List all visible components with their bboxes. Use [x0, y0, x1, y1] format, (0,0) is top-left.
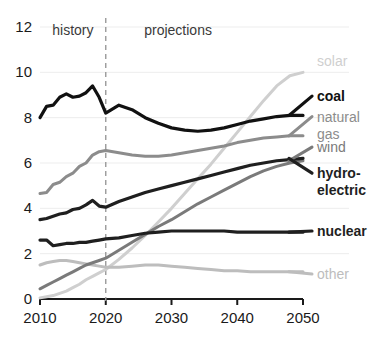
- x-tick-label-2050: 2050: [286, 309, 319, 326]
- series-label-coal: coal: [317, 88, 345, 104]
- series-label-wind: wind: [316, 139, 346, 155]
- series-lines: [40, 72, 303, 298]
- series-leader-coal: [289, 96, 312, 115]
- series-line-other: [40, 260, 303, 271]
- series-label-nuclear: nuclear: [317, 223, 367, 239]
- x-tick-label-2040: 2040: [221, 309, 254, 326]
- series-label-solar: solar: [317, 53, 348, 69]
- series-labels: coalnaturalgaswindhydro-electricnuclears…: [289, 53, 367, 282]
- series-line-coal: [40, 86, 303, 131]
- era-annotations: historyprojections: [52, 22, 212, 38]
- x-tick-label-2010: 2010: [23, 309, 56, 326]
- y-tick-label-2: 2: [24, 245, 32, 262]
- y-tick-label-8: 8: [24, 109, 32, 126]
- series-label-hydro-electric-line2: electric: [317, 182, 366, 198]
- chart-canvas: 024681012 20102020203020402050 historypr…: [0, 0, 382, 358]
- series-line-nuclear: [40, 231, 303, 246]
- series-label-hydro-electric: hydro-: [317, 165, 361, 181]
- y-tick-label-0: 0: [24, 290, 32, 307]
- era-label-history: history: [52, 22, 93, 38]
- era-label-projections: projections: [144, 22, 212, 38]
- x-tick-label-2020: 2020: [89, 309, 122, 326]
- y-tick-label-6: 6: [24, 154, 32, 171]
- y-tick-label-4: 4: [24, 199, 32, 216]
- x-axis-tick-labels: 20102020203020402050: [23, 309, 319, 326]
- series-label-other: other: [317, 266, 349, 282]
- x-axis: [40, 299, 303, 305]
- y-axis-tick-labels: 024681012: [15, 18, 32, 307]
- series-leader-nuclear: [289, 231, 312, 232]
- y-tick-label-12: 12: [15, 18, 32, 35]
- series-label-natural-gas: natural: [317, 109, 360, 125]
- series-leader-natural-gas: [289, 117, 312, 136]
- energy-sources-line-chart: 024681012 20102020203020402050 historypr…: [0, 0, 382, 358]
- series-leader-other: [289, 272, 312, 274]
- series-line-wind: [40, 161, 303, 289]
- gridlines: [40, 27, 349, 254]
- y-tick-label-10: 10: [15, 63, 32, 80]
- x-tick-label-2030: 2030: [155, 309, 188, 326]
